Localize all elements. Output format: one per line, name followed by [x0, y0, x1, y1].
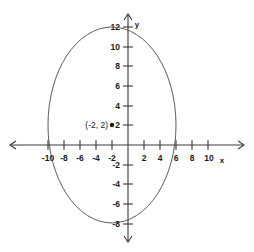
y-tick-label: 8	[115, 61, 120, 71]
x-axis	[10, 141, 244, 149]
y-axis	[124, 14, 132, 242]
x-tick-label: -6	[76, 153, 84, 163]
y-tick-label: -8	[112, 219, 120, 229]
plotted-point-label: (-2, 2)	[85, 120, 108, 130]
y-tick-label: -2	[112, 160, 120, 170]
x-tick-label: 6	[174, 153, 179, 163]
x-tick-label: 10	[204, 153, 214, 163]
x-tick-label: -4	[92, 153, 100, 163]
y-tick-label: 2	[115, 120, 120, 130]
x-axis-label: x	[220, 156, 225, 165]
y-axis-label: y	[135, 20, 140, 29]
x-tick-label: 8	[190, 153, 195, 163]
graph-svg: -10 -8 -6 -4 -2 2 4 6 8 10 12 10 8 6 4 2…	[0, 0, 254, 252]
y-tick-label: 6	[115, 81, 120, 91]
plotted-point-marker	[110, 123, 114, 127]
x-tick-label: 2	[142, 153, 147, 163]
y-tick-label: -6	[112, 199, 120, 209]
y-tick-label: 4	[115, 101, 120, 111]
y-tick-label: 10	[111, 42, 121, 52]
x-tick-label: -8	[60, 153, 68, 163]
x-tick-label: 4	[158, 153, 163, 163]
y-tick-label: -4	[112, 179, 120, 189]
coordinate-plane-figure: -10 -8 -6 -4 -2 2 4 6 8 10 12 10 8 6 4 2…	[0, 0, 254, 252]
